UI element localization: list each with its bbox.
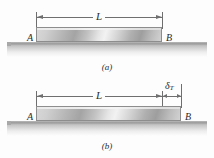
ground-left-cap-a: [7, 42, 11, 46]
panel-b-caption: (b): [0, 141, 214, 151]
arrowhead-b-left-icon: [37, 94, 43, 98]
panel-a-caption: (a): [0, 62, 214, 72]
thermal-expansion-figure: L A B (a) L δT: [0, 0, 214, 158]
bar-b-top-highlight: [37, 107, 180, 109]
arrowhead-a-right-icon: [156, 15, 162, 19]
panel-b-left-node-label: A: [27, 112, 33, 122]
extension-line-a-right: [162, 12, 163, 29]
panel-b: L δT A B (b): [0, 79, 214, 158]
arrowhead-b-mid-icon: [156, 94, 162, 98]
arrowhead-a-left-icon: [37, 15, 43, 19]
arrowhead-b-delta-left-icon: [163, 94, 167, 98]
bar-a-top-highlight: [37, 28, 161, 30]
panel-b-length-label: L: [93, 90, 105, 101]
ground-left-cap-b: [7, 121, 11, 125]
ground-shadow-a: [7, 46, 207, 57]
arrowhead-b-delta-right-icon: [177, 94, 181, 98]
ground-shadow-b: [7, 125, 207, 136]
panel-a: L A B (a): [0, 0, 214, 79]
extension-line-b-right: [181, 84, 182, 108]
panel-a-right-node-label: B: [166, 33, 172, 43]
bar-a: [36, 27, 162, 42]
panel-a-left-node-label: A: [27, 33, 33, 43]
panel-b-right-node-label: B: [185, 112, 191, 122]
panel-a-length-label: L: [93, 11, 105, 22]
delta-subscript: T: [170, 84, 174, 92]
bar-b: [36, 106, 181, 121]
panel-b-delta-label: δT: [164, 81, 175, 92]
